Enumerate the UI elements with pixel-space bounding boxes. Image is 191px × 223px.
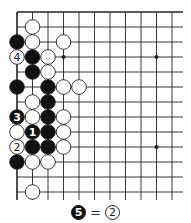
diagram-caption: 5 = 2: [0, 203, 191, 221]
move-number: 3: [13, 111, 21, 124]
move-number: 4: [14, 51, 21, 64]
black-stone: [10, 35, 25, 50]
caption-equals: =: [89, 205, 102, 220]
white-stone: [41, 65, 56, 80]
white-stone: [41, 155, 56, 170]
move-number: 2: [14, 141, 21, 154]
black-stone: [41, 125, 56, 140]
white-stone: [25, 110, 40, 125]
black-stone: [41, 80, 56, 95]
white-stone: [41, 50, 56, 65]
white-stone: [25, 95, 40, 110]
white-stone: 2: [10, 140, 25, 155]
caption-black-stone: 5: [71, 205, 86, 220]
go-board: 4312: [0, 0, 191, 203]
white-stone: [56, 35, 71, 50]
white-stone: [56, 140, 71, 155]
white-stone: 4: [10, 50, 25, 65]
white-stone: [25, 185, 40, 200]
star-point: [62, 55, 66, 59]
black-stone: 1: [25, 125, 40, 140]
white-stone: [56, 110, 71, 125]
move-number: 1: [29, 126, 37, 139]
black-stone: [41, 95, 56, 110]
black-stone: [25, 140, 40, 155]
black-stone: [10, 155, 25, 170]
black-stone: [25, 65, 40, 80]
white-stone: [25, 20, 40, 35]
black-stone: 3: [10, 110, 25, 125]
caption-white-stone: 2: [105, 205, 120, 220]
white-stone: [56, 80, 71, 95]
white-stone: [72, 80, 87, 95]
white-stone: [10, 125, 25, 140]
white-stone: [25, 35, 40, 50]
black-stone: [41, 140, 56, 155]
white-stone: [56, 125, 71, 140]
black-stone: [25, 50, 40, 65]
star-point: [155, 55, 159, 59]
white-stone: [25, 155, 40, 170]
black-stone: [10, 80, 25, 95]
star-point: [155, 145, 159, 149]
black-stone: [41, 110, 56, 125]
